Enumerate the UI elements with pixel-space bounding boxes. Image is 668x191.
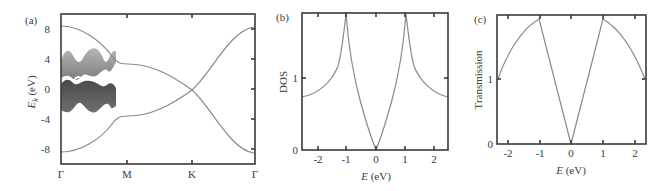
panel-c-xticklabels: -2 -1 0 1 2 <box>503 147 637 159</box>
svg-text:Transmission: Transmission <box>472 50 484 109</box>
panel-a: (a) 8 4 0 -4 -8 Ek (eV) <box>25 14 258 180</box>
ylabel-unit: (eV) <box>25 75 38 98</box>
ytick-label: 0 <box>488 138 494 150</box>
ytick-label: 4 <box>45 53 51 65</box>
svg-text:-1: -1 <box>535 147 544 159</box>
panel-c-frame <box>497 15 646 144</box>
xtick-label: K <box>188 168 196 180</box>
ytick-label: 1 <box>293 72 299 84</box>
svg-text:-2: -2 <box>313 153 322 165</box>
svg-text:1: 1 <box>402 153 408 165</box>
xtick-label: M <box>122 168 132 180</box>
svg-text:-1: -1 <box>341 153 350 165</box>
svg-text:Ek (eV): Ek (eV) <box>25 75 40 110</box>
ytick-label: 0 <box>293 144 299 156</box>
panel-b-ylabel: DOS <box>277 71 289 93</box>
band-structure-3d-inset <box>61 48 116 112</box>
panel-a-label: (a) <box>25 14 38 27</box>
panel-a-xticklabels: Γ M K Γ <box>58 168 258 180</box>
svg-text:DOS: DOS <box>277 71 289 93</box>
ytick-label: -4 <box>41 113 51 125</box>
panel-c: (c) 0 1 Transmission -2 -1 0 1 2 E (eV) <box>472 13 646 177</box>
ytick-label: 1 <box>488 73 494 85</box>
panel-b: (b) 0 1 DOS -2 -1 0 1 2 E (eV) <box>276 11 448 183</box>
svg-text:0: 0 <box>373 153 379 165</box>
figure: (a) 8 4 0 -4 -8 Ek (eV) <box>0 0 668 191</box>
transmission-curve <box>498 19 645 144</box>
panel-a-yticklabels: 8 4 0 -4 -8 <box>41 23 51 155</box>
panel-b-label: (b) <box>276 11 289 24</box>
panel-c-label: (c) <box>474 13 487 26</box>
ytick-label: 0 <box>45 83 51 95</box>
panel-c-xlabel: E (eV) <box>555 164 586 177</box>
svg-text:-2: -2 <box>503 147 512 159</box>
ytick-label: -8 <box>41 143 51 155</box>
panel-b-xlabel: E (eV) <box>360 170 391 183</box>
svg-text:0: 0 <box>568 147 574 159</box>
xtick-label: Γ <box>58 168 64 180</box>
panel-b-xticklabels: -2 -1 0 1 2 <box>313 153 436 165</box>
panel-c-ylabel: Transmission <box>472 50 484 109</box>
panel-a-ylabel: Ek (eV) <box>25 75 40 110</box>
panel-b-frame <box>302 13 448 150</box>
ytick-label: 8 <box>45 23 51 35</box>
svg-text:1: 1 <box>600 147 606 159</box>
xtick-label: Γ <box>252 168 258 180</box>
svg-text:2: 2 <box>632 147 638 159</box>
dos-curve <box>302 14 448 150</box>
svg-text:2: 2 <box>431 153 437 165</box>
